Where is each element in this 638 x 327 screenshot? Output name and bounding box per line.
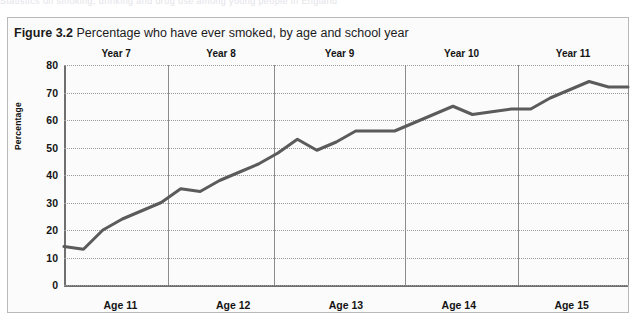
year-band-label: Year 8 <box>206 48 235 59</box>
plot-area: Year 7Year 8Year 9Year 10Year 11Age 11Ag… <box>64 65 628 285</box>
y-axis-tick: 0 <box>24 279 58 291</box>
page-bleed-text: Statistics on smoking, drinking and drug… <box>0 0 638 13</box>
y-axis-tick: 70 <box>24 87 58 99</box>
x-axis-age-label: Age 13 <box>329 299 363 311</box>
figure-screenshot: Statistics on smoking, drinking and drug… <box>0 0 638 327</box>
bleed-text-line: Statistics on smoking, drinking and drug… <box>0 0 337 6</box>
y-axis-tick: 80 <box>24 59 58 71</box>
figure-number: Figure 3.2 <box>14 26 73 40</box>
year-band-label: Year 7 <box>101 48 130 59</box>
year-band-label: Year 10 <box>444 48 479 59</box>
x-axis-age-label: Age 11 <box>103 299 137 311</box>
year-band-label: Year 9 <box>325 48 354 59</box>
y-axis-tick: 50 <box>24 142 58 154</box>
figure-title: Figure 3.2 Percentage who have ever smok… <box>14 26 409 40</box>
x-axis-age-label: Age 12 <box>216 299 250 311</box>
x-axis-age-label: Age 14 <box>442 299 476 311</box>
y-axis-tick: 20 <box>24 224 58 236</box>
y-axis-tick: 60 <box>24 114 58 126</box>
data-series-line <box>64 65 628 285</box>
y-axis-tick: 30 <box>24 197 58 209</box>
gridline <box>64 285 628 286</box>
series-polyline <box>64 82 628 250</box>
y-axis-tick: 40 <box>24 169 58 181</box>
figure-title-text: Percentage who have ever smoked, by age … <box>77 26 409 40</box>
y-axis-tick-labels: 01020304050607080 <box>22 65 58 285</box>
x-axis-age-label: Age 15 <box>554 299 588 311</box>
y-axis-tick: 10 <box>24 252 58 264</box>
year-band-divider <box>628 65 629 285</box>
year-band-label: Year 11 <box>556 48 590 59</box>
